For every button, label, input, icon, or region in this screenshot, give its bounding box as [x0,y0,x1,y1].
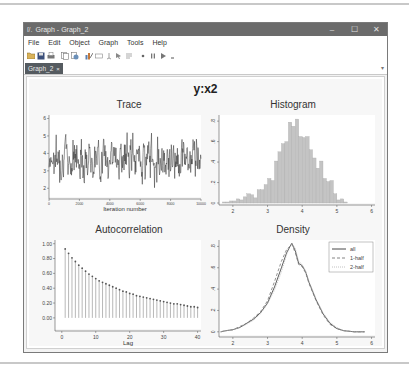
svg-text:2: 2 [43,185,46,191]
pointer-icon[interactable] [114,51,123,60]
histogram-bar [274,161,277,203]
x-axis-label: Lag [123,340,133,346]
svg-text:30: 30 [161,334,167,340]
svg-text:5: 5 [335,208,338,214]
panel-title: Histogram [270,99,316,110]
histogram-bar [250,195,253,203]
tab-label: Graph_2 [28,65,53,72]
histogram-bar [257,190,260,203]
bottom-divider [0,362,409,364]
svg-text:6: 6 [370,208,373,214]
histogram-bar [271,180,274,203]
svg-text:.6: .6 [210,139,216,143]
title-bar[interactable]: ſ/. Graph - Graph_2 – ☐ ✕ [24,23,387,36]
histogram-bar [292,126,295,203]
histogram-bar [261,190,264,203]
svg-text:4: 4 [301,208,304,214]
record-icon[interactable] [104,51,113,60]
density-legend: all1-half2-half [329,242,373,272]
save-icon[interactable] [36,51,45,60]
maximize-button[interactable]: ☐ [343,23,365,36]
svg-text:3: 3 [266,208,269,214]
trace-plot: Trace234560200040006000800010000Iteratio… [31,97,207,215]
histogram-bar [326,182,329,203]
svg-text:2: 2 [231,340,234,346]
svg-text:5: 5 [43,133,46,139]
stata-icon: ſ/. [27,26,32,33]
histogram-bar [240,200,243,203]
histogram-bar [309,150,312,203]
density-plot: Density0.2.4.6.823456all1-half2-half [205,222,381,347]
copy-special-icon[interactable] [70,51,79,60]
svg-text:2-half: 2-half [350,264,364,270]
svg-text:.4: .4 [210,160,216,164]
window-title: Graph - Graph_2 [35,26,88,33]
svg-text:.8: .8 [210,244,216,248]
panel-title: Trace [116,99,142,110]
svg-text:2000: 2000 [76,202,84,206]
tab-graph-2[interactable]: Graph_2 × [25,63,63,74]
menu-tools[interactable]: Tools [127,39,143,46]
minimize-button[interactable]: – [321,23,343,36]
print-icon[interactable] [46,51,55,60]
play-dropdown-icon[interactable] [168,51,177,60]
histogram-bar [320,161,323,203]
rename-icon[interactable] [94,51,103,60]
svg-text:0: 0 [210,201,216,204]
svg-text:6: 6 [370,340,373,346]
histogram-bar [299,136,302,203]
svg-text:.8: .8 [210,119,216,123]
histogram-bar [268,178,271,203]
tab-close-icon[interactable]: × [56,66,60,72]
svg-text:0.80: 0.80 [42,255,52,261]
svg-text:5: 5 [335,340,338,346]
histogram-bar [313,158,316,203]
menu-edit[interactable]: Edit [48,39,60,46]
open-icon[interactable] [26,51,35,60]
histogram-bar [264,185,267,203]
record-dot-icon[interactable] [138,51,147,60]
histogram-bar [254,198,257,203]
tab-strip: Graph_2 × ▾ [24,62,387,75]
svg-text:3: 3 [43,168,46,174]
svg-text:0: 0 [48,202,50,206]
histogram-bar [236,199,239,203]
svg-text:all: all [350,246,356,252]
graph-canvas: y:x2 Trace234560200040006000800010000Ite… [26,76,385,349]
histogram-bar [281,144,284,203]
x-axis-label: Iteration number [103,206,147,212]
text-icon[interactable] [124,51,133,60]
graph-editor-icon[interactable] [84,51,93,60]
panel-title: Density [276,224,309,235]
histogram-bar [323,178,326,203]
menu-bar: File Edit Object Graph Tools Help [24,36,387,49]
graph-title: y:x2 [27,82,384,96]
histogram-bar [243,197,246,203]
tab-overflow-icon[interactable]: ▾ [381,64,384,71]
svg-text:6: 6 [43,115,46,121]
close-button[interactable]: ✕ [365,23,387,36]
svg-text:0: 0 [210,330,216,333]
svg-text:.6: .6 [210,265,216,269]
svg-text:10: 10 [93,334,99,340]
pause-icon[interactable] [148,51,157,60]
svg-text:.4: .4 [210,287,216,291]
svg-text:0.60: 0.60 [42,270,52,276]
svg-text:0.00: 0.00 [42,315,52,321]
autocorrelation-plot: Autocorrelation0.000.200.400.600.801.000… [31,222,207,347]
menu-object[interactable]: Object [69,39,89,46]
play-icon[interactable] [158,51,167,60]
svg-text:0.40: 0.40 [42,285,52,291]
histogram-bar [285,142,288,203]
svg-text:8000: 8000 [167,202,175,206]
graph-window: ſ/. Graph - Graph_2 – ☐ ✕ File Edit Obje… [23,22,388,353]
histogram-bar [226,202,229,203]
menu-graph[interactable]: Graph [99,39,118,46]
histogram-bar [247,194,250,203]
menu-help[interactable]: Help [152,39,166,46]
copy-icon[interactable] [60,51,69,60]
menu-file[interactable]: File [28,39,39,46]
svg-text:3: 3 [266,340,269,346]
histogram-bar [333,194,336,203]
histogram-bar [229,201,232,203]
